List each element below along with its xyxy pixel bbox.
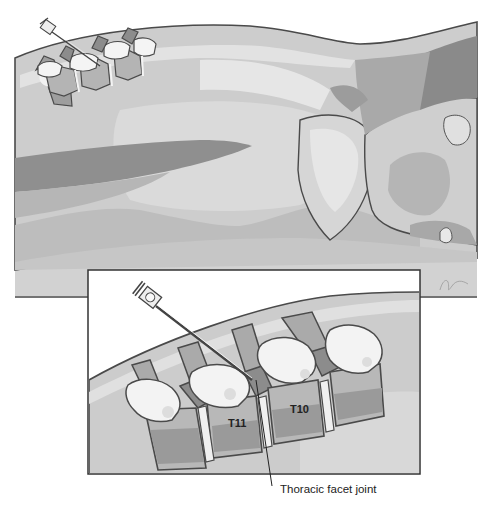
vertebra-label-t10: T10	[290, 403, 309, 415]
inset-view	[88, 270, 420, 486]
callout-label-thoracic-facet-joint: Thoracic facet joint	[280, 483, 377, 495]
vertebra-label-t11: T11	[228, 417, 246, 429]
illustration-canvas	[0, 0, 493, 510]
figure: T11 T10 Thoracic facet joint	[0, 0, 493, 510]
main-view	[15, 0, 477, 298]
